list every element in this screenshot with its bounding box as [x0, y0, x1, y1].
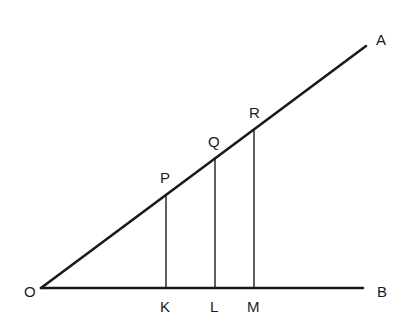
label-R: R — [249, 104, 260, 121]
label-M: M — [247, 298, 260, 315]
label-K: K — [160, 298, 170, 315]
label-L: L — [210, 298, 218, 315]
label-O: O — [24, 283, 36, 300]
label-B: B — [377, 283, 387, 300]
geometry-diagram: O A B P Q R K L M — [0, 0, 413, 327]
lines — [41, 46, 366, 288]
label-Q: Q — [208, 133, 220, 150]
label-P: P — [160, 169, 170, 186]
ray-OA — [41, 46, 366, 288]
label-A: A — [376, 31, 386, 48]
point-labels: O A B P Q R K L M — [24, 31, 387, 315]
